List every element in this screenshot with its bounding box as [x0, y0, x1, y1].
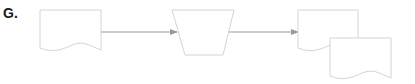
flowchart-diagram: [0, 0, 415, 84]
document-shape-input: [40, 10, 101, 51]
document-shape-output-2: [330, 38, 391, 79]
trapezoid-manual-operation-shape: [172, 10, 234, 55]
